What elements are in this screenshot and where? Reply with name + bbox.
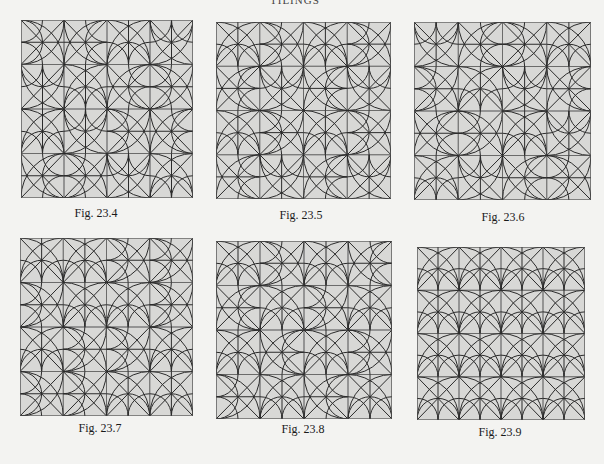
figure-23-6-tiling	[414, 22, 591, 200]
figure-23-6-caption: Fig. 23.6	[481, 210, 524, 225]
figure-23-8-tiling	[216, 241, 392, 419]
figure-23-5-tiling	[216, 22, 391, 199]
figure-23-8-caption: Fig. 23.8	[281, 422, 324, 437]
running-header: TILINGS	[270, 0, 320, 6]
figure-23-9-tiling	[417, 247, 585, 420]
figure-23-4-tiling	[21, 20, 193, 198]
figure-23-5-caption: Fig. 23.5	[279, 208, 322, 223]
figure-23-7-caption: Fig. 23.7	[78, 421, 121, 436]
figure-23-4-caption: Fig. 23.4	[74, 206, 117, 221]
figure-23-9-caption: Fig. 23.9	[478, 425, 521, 440]
figure-23-7-tiling	[20, 238, 193, 416]
